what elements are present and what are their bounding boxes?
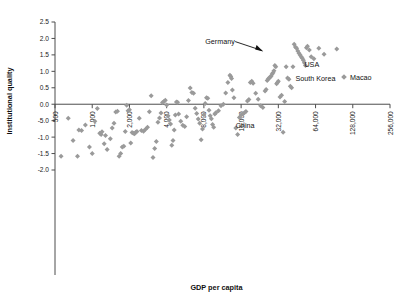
data-point-marker <box>231 95 236 100</box>
annotation-label-germany: Germany <box>205 37 235 46</box>
data-point-marker <box>149 93 154 98</box>
data-point-marker <box>253 91 258 96</box>
data-point-marker <box>170 138 175 143</box>
data-point-marker <box>184 114 189 119</box>
data-point-marker <box>164 102 169 107</box>
data-point-marker <box>95 106 100 111</box>
data-point-marker <box>111 121 116 126</box>
y-tick-label: -2.0 <box>38 166 50 173</box>
annotation-label-south-korea: South Korea <box>295 74 335 83</box>
y-tick-label: 0.5 <box>40 84 49 91</box>
data-point-marker <box>316 46 321 51</box>
data-point-marker <box>169 143 174 148</box>
data-point-marker <box>108 136 113 141</box>
annotation-label-usa: USA <box>304 60 319 69</box>
data-point-marker <box>225 80 230 85</box>
x-tick-label: 64,000 <box>312 111 319 132</box>
data-point-marker <box>90 151 95 156</box>
annotation-label-china: China <box>236 121 255 130</box>
y-tick-label: -1.5 <box>38 150 50 157</box>
data-point-marker <box>102 141 107 146</box>
y-tick-label: 1.0 <box>40 68 49 75</box>
y-tick-label: 0.0 <box>40 101 49 108</box>
data-point-marker <box>87 144 92 149</box>
data-point-marker <box>105 147 110 152</box>
legend-label-macao: Macao <box>350 73 372 82</box>
data-point-marker <box>172 127 177 132</box>
data-point-marker <box>223 91 228 96</box>
legend-marker-macao <box>341 74 347 80</box>
data-point-marker <box>230 88 235 93</box>
data-point-marker <box>59 154 64 159</box>
data-point-marker <box>334 46 339 51</box>
y-axis-title: Institutional quality <box>5 67 14 135</box>
data-point-marker <box>150 155 155 160</box>
annotation-arrow-head <box>255 45 263 52</box>
data-point-marker <box>123 129 128 134</box>
data-point-marker <box>124 103 129 108</box>
data-point-marker <box>186 98 191 103</box>
data-point-marker <box>155 120 160 125</box>
data-point-marker <box>290 64 295 69</box>
y-tick-label: -5.0 <box>38 117 50 124</box>
scatter-chart: 2.52.01.51.00.50.0-5.0-1.0-1.5-2.05001,0… <box>0 0 404 304</box>
data-point-marker <box>199 137 204 142</box>
data-point-marker <box>282 99 287 104</box>
data-point-marker <box>75 154 80 159</box>
data-point-marker <box>235 132 240 137</box>
x-tick-label: 256,000 <box>387 111 394 135</box>
x-tick-label: 500 <box>52 111 59 122</box>
y-tick-label: -1.0 <box>38 134 50 141</box>
data-point-marker <box>152 146 157 151</box>
data-point-marker <box>193 106 198 111</box>
data-point-marker <box>110 125 115 130</box>
data-point-marker <box>157 116 162 121</box>
y-tick-label: 2.5 <box>40 18 49 25</box>
data-point-marker <box>154 139 159 144</box>
data-point-marker <box>83 122 88 127</box>
data-point-marker <box>188 86 193 91</box>
data-point-marker <box>194 111 199 116</box>
x-tick-label: 32,000 <box>275 111 282 132</box>
data-point-marker <box>128 141 133 146</box>
data-point-marker <box>322 52 327 57</box>
data-point-marker <box>103 133 108 138</box>
data-point-marker <box>147 109 152 114</box>
chart-canvas: 2.52.01.51.00.50.0-5.0-1.0-1.5-2.05001,0… <box>0 0 404 304</box>
data-point-marker <box>284 64 289 69</box>
y-tick-label: 1.5 <box>40 51 49 58</box>
x-axis-title: GDP per capita <box>190 283 243 292</box>
x-tick-label: 2,000 <box>126 111 133 128</box>
data-point-marker <box>137 116 142 121</box>
x-tick-label: 128,000 <box>349 111 356 135</box>
y-tick-label: 2.0 <box>40 35 49 42</box>
data-point-marker <box>256 97 261 102</box>
data-point-marker <box>66 116 71 121</box>
data-point-marker <box>71 138 76 143</box>
